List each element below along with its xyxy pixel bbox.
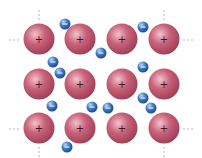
- electron: [55, 68, 66, 79]
- minus-sign-icon: [63, 24, 68, 25]
- positive-ion: +: [65, 69, 96, 100]
- continuation-dots-top: [163, 18, 164, 19]
- plus-sign-icon: +: [76, 34, 84, 45]
- electron: [48, 57, 59, 68]
- electron: [96, 48, 107, 59]
- positive-ion: +: [24, 69, 55, 100]
- continuation-dots-left: [13, 128, 14, 129]
- continuation-dots-left: [13, 39, 14, 40]
- electron: [103, 103, 114, 114]
- continuation-dots-right: [187, 128, 188, 129]
- continuation-dots-top: [38, 18, 39, 19]
- minus-sign-icon: [141, 98, 146, 99]
- plus-sign-icon: +: [160, 34, 168, 45]
- continuation-dots-bottom: [38, 151, 39, 152]
- minus-sign-icon: [65, 147, 70, 148]
- positive-ion: +: [107, 69, 138, 100]
- minus-sign-icon: [149, 108, 154, 109]
- positive-ion: +: [24, 24, 55, 55]
- plus-sign-icon: +: [35, 123, 43, 134]
- minus-sign-icon: [141, 67, 146, 68]
- electron: [138, 22, 149, 33]
- plus-sign-icon: +: [160, 123, 168, 134]
- continuation-dots-bottom: [163, 151, 164, 152]
- plus-sign-icon: +: [35, 34, 43, 45]
- plus-sign-icon: +: [35, 79, 43, 90]
- minus-sign-icon: [141, 27, 146, 28]
- electron: [47, 101, 58, 112]
- minus-sign-icon: [99, 53, 104, 54]
- positive-ion: +: [149, 69, 180, 100]
- electron: [62, 142, 73, 153]
- continuation-dots-right: [187, 39, 188, 40]
- plus-sign-icon: +: [118, 79, 126, 90]
- positive-ion: +: [149, 113, 180, 144]
- continuation-dots-top: [163, 10, 164, 11]
- continuation-dots-right: [191, 39, 192, 40]
- continuation-dots-right: [183, 39, 184, 40]
- minus-sign-icon: [106, 108, 111, 109]
- positive-ions: ++++++++++++: [24, 24, 180, 144]
- positive-ion: +: [107, 24, 138, 55]
- continuation-dots-right: [183, 128, 184, 129]
- positive-ion: +: [65, 113, 96, 144]
- minus-sign-icon: [90, 107, 95, 108]
- electron: [87, 102, 98, 113]
- plus-sign-icon: +: [76, 123, 84, 134]
- minus-sign-icon: [58, 73, 63, 74]
- continuation-dots-left: [9, 39, 10, 40]
- plus-sign-icon: +: [76, 79, 84, 90]
- minus-sign-icon: [50, 106, 55, 107]
- plus-sign-icon: +: [160, 79, 168, 90]
- electron-sea: [47, 19, 157, 153]
- continuation-dots-right: [191, 128, 192, 129]
- continuation-dots-bottom: [38, 155, 39, 156]
- positive-ion: +: [24, 113, 55, 144]
- continuation-dots-left: [17, 128, 18, 129]
- metallic-lattice-diagram: ++++++++++++: [0, 0, 202, 158]
- continuation-dots-bottom: [163, 147, 164, 148]
- continuation-dots-bottom: [38, 147, 39, 148]
- positive-ion: +: [107, 113, 138, 144]
- positive-ion: +: [65, 24, 96, 55]
- continuation-dots-top: [38, 10, 39, 11]
- continuation-dots-bottom: [163, 155, 164, 156]
- continuation-dots-left: [17, 39, 18, 40]
- electron: [60, 19, 71, 30]
- continuation-dots-left: [9, 128, 10, 129]
- electron: [138, 93, 149, 104]
- positive-ion: +: [149, 24, 180, 55]
- plus-sign-icon: +: [118, 34, 126, 45]
- continuation-dots-top: [38, 14, 39, 15]
- plus-sign-icon: +: [118, 123, 126, 134]
- minus-sign-icon: [51, 62, 56, 63]
- continuation-dots-top: [163, 14, 164, 15]
- electron: [138, 62, 149, 73]
- electron: [146, 103, 157, 114]
